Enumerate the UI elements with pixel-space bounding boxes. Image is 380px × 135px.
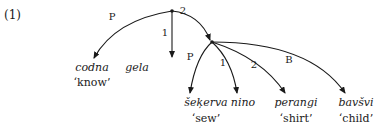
word-nino: nino	[231, 97, 255, 108]
edge-root-sub	[172, 11, 210, 40]
edge-label: B	[285, 55, 292, 65]
edge-root-codna	[94, 11, 172, 58]
edge-label: 2	[251, 60, 257, 70]
edge-label: 1	[162, 28, 168, 38]
edge-label: 2	[180, 6, 186, 16]
gloss-perangi: ‘shirt’	[280, 113, 313, 124]
edge-label: 1	[220, 58, 226, 68]
root-node	[170, 9, 174, 13]
edge-label: P	[109, 12, 116, 22]
edge-sub-sekerva	[190, 42, 212, 93]
word-gela: gela	[125, 62, 149, 73]
edge-label: P	[187, 52, 194, 62]
gloss-bavsvi: ‘child’	[339, 113, 373, 124]
word-bavsvi: bavšvi	[338, 97, 373, 108]
word-perangi: perangi	[274, 97, 317, 108]
gloss-codna: ‘know’	[74, 77, 111, 88]
dependency-edges	[0, 0, 380, 135]
word-sekerva: šeķerva	[184, 97, 227, 108]
gloss-sekerva: ‘sew’	[192, 113, 221, 124]
word-codna: codna	[75, 62, 108, 73]
sub-node	[210, 40, 214, 44]
